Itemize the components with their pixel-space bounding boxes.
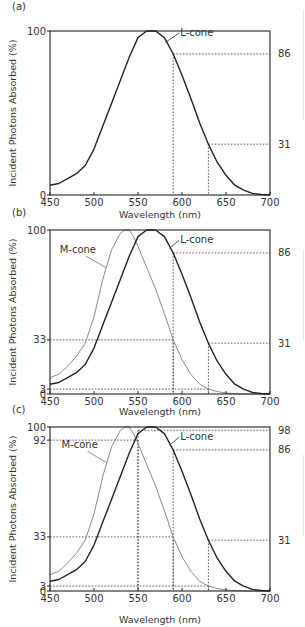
panel-label: (b) (12, 207, 26, 218)
y-axis-title: Incident Photons Absorbed (%) (7, 239, 18, 386)
m-cone-label: M-cone (61, 439, 97, 450)
y-tick-label-right: 98 (278, 425, 291, 436)
x-tick-label: 650 (216, 396, 235, 407)
m-cone-label: M-cone (60, 244, 96, 255)
y-tick-label-left: 33 (33, 334, 46, 345)
x-tick-label: 700 (260, 396, 279, 407)
l-cone-curve (50, 31, 270, 195)
y-tick-label-left: 0 (40, 190, 46, 201)
plot-frame (50, 31, 270, 195)
cone-absorption-figure: (a)Incident Photons Absorbed (%)45050055… (0, 0, 305, 627)
x-tick-label: 550 (128, 593, 147, 604)
x-tick-label: 650 (216, 197, 235, 208)
guide-lines (50, 430, 270, 591)
x-tick-label: 600 (172, 593, 191, 604)
l-cone-curve (50, 427, 270, 591)
plot-frame (50, 427, 270, 591)
l-cone-label: L-cone (180, 431, 213, 442)
x-tick-label: 500 (84, 197, 103, 208)
y-tick-label-left: 33 (33, 531, 46, 542)
chart-panel-b: (b)Incident Photons Absorbed (%)45050055… (7, 207, 291, 417)
l-cone-label: L-cone (180, 27, 213, 38)
panel-label: (a) (12, 1, 26, 12)
guide-lines (173, 54, 270, 195)
x-tick-label: 600 (172, 197, 191, 208)
x-tick-label: 700 (260, 197, 279, 208)
y-tick-label-right: 31 (278, 338, 291, 349)
x-tick-label: 700 (260, 593, 279, 604)
chart-panel-c: (c)Incident Photons Absorbed (%)45050055… (7, 404, 291, 625)
y-tick-label-right: 86 (278, 247, 291, 258)
y-axis-title: Incident Photons Absorbed (%) (7, 436, 18, 583)
x-tick-label: 550 (128, 197, 147, 208)
guide-lines (50, 253, 270, 394)
m-cone-curve (50, 427, 270, 591)
x-tick-label: 500 (84, 396, 103, 407)
y-tick-label-right: 86 (278, 444, 291, 455)
y-tick-label-left: 3 (40, 581, 46, 592)
x-axis-title: Wavelength (nm) (119, 406, 201, 417)
l-cone-label: L-cone (180, 234, 213, 245)
y-tick-label-right: 31 (278, 535, 291, 546)
x-tick-label: 500 (84, 593, 103, 604)
x-axis-title: Wavelength (nm) (119, 614, 201, 625)
y-tick-label-left: 100 (27, 225, 46, 236)
chart-panel-a: (a)Incident Photons Absorbed (%)45050055… (7, 1, 291, 220)
x-tick-label: 650 (216, 593, 235, 604)
y-axis-title: Incident Photons Absorbed (%) (7, 40, 18, 187)
y-tick-label-left: 92 (33, 435, 46, 446)
y-tick-label-left: 100 (27, 26, 46, 37)
panel-label: (c) (12, 404, 25, 415)
y-tick-label-left: 100 (27, 422, 46, 433)
y-tick-label-left: 3 (40, 384, 46, 395)
y-tick-label-right: 86 (278, 48, 291, 59)
x-axis-title: Wavelength (nm) (119, 209, 201, 220)
y-tick-label-right: 31 (278, 139, 291, 150)
